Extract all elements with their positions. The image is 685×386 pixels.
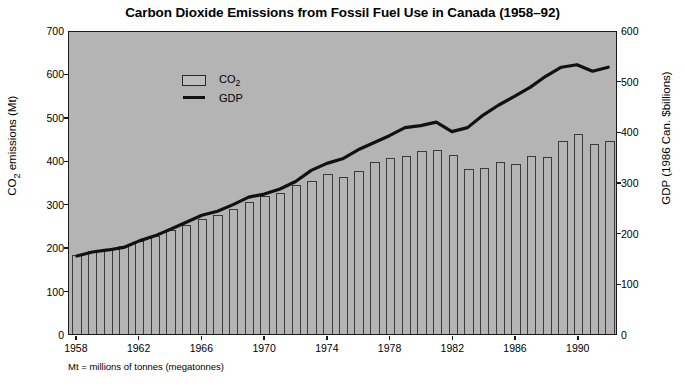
x-axis: 195819621966197019741978198219861990 [68,336,617,358]
x-tick-mark [75,336,77,340]
x-tick-label: 1990 [566,342,589,354]
x-tick-mark [389,336,391,340]
x-tick-label: 1974 [315,342,338,354]
x-tick-mark [263,336,265,340]
y-axis-right: 0100200300400500600 [621,31,665,335]
y-tick-label: 200 [30,243,64,254]
legend-label-gdp: GDP [219,92,243,104]
y-axis-left: 0100200300400500600700 [20,31,64,335]
chart-footnote: Mt = millions of tonnes (megatonnes) [68,361,224,372]
chart-figure: Carbon Dioxide Emissions from Fossil Fue… [0,0,685,386]
x-tick-mark [514,336,516,340]
y-tick-label: 600 [621,26,655,37]
x-tick-label: 1962 [127,342,150,354]
chart-legend: CO2 GDP [177,72,243,106]
x-tick-mark [138,336,140,340]
y-tick-label: 0 [621,330,655,341]
legend-label-co2: CO2 [219,73,240,88]
x-tick-label: 1958 [64,342,87,354]
subscript-2: 2 [12,174,22,179]
x-tick-label: 1982 [441,342,464,354]
y-tick-label: 400 [621,127,655,138]
gdp-line-layer [69,32,616,334]
y-tick-label: 500 [621,77,655,88]
y-tick-label: 600 [30,69,64,80]
x-tick-label: 1978 [378,342,401,354]
y-tick-label: 0 [30,330,64,341]
y-axis-left-title: CO2 emissions (Mt) [6,46,21,246]
x-tick-label: 1966 [190,342,213,354]
y-tick-label: 300 [621,178,655,189]
x-tick-mark [326,336,328,340]
y-tick-label: 100 [30,287,64,298]
legend-item-co2: CO2 [177,72,243,89]
gdp-line [77,65,608,256]
y-tick-label: 300 [30,200,64,211]
x-tick-label: 1970 [252,342,275,354]
x-tick-mark [201,336,203,340]
x-tick-mark [577,336,579,340]
y-tick-label: 200 [621,229,655,240]
x-tick-mark [452,336,454,340]
subscript-2: 2 [236,78,241,88]
y-tick-label: 100 [621,279,655,290]
legend-bar-swatch-icon [177,75,211,86]
x-tick-label: 1986 [503,342,526,354]
plot-area: CO2 GDP [68,31,617,335]
y-tick-label: 500 [30,113,64,124]
chart-title: Carbon Dioxide Emissions from Fossil Fue… [0,5,685,20]
legend-line-swatch-icon [177,96,211,100]
y-tick-label: 400 [30,156,64,167]
legend-item-gdp: GDP [177,89,243,106]
y-tick-label: 700 [30,26,64,37]
y-axis-right-title: GDP (1986 Can. $billions) [660,38,672,238]
